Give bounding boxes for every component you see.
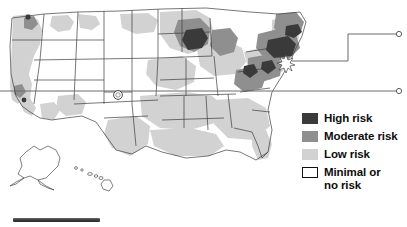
legend-label-low-risk: Low risk: [324, 148, 370, 161]
legend-item-minimal-risk: Minimal or no risk: [302, 166, 407, 198]
hawaii-inset: [75, 167, 113, 191]
legend-item-low-risk: Low risk: [302, 148, 407, 166]
alaska-inset: [10, 146, 60, 190]
high-risk-swatch: [302, 113, 318, 124]
legend-label-moderate-risk: Moderate risk: [324, 130, 397, 143]
minimal-risk-swatch: [302, 167, 318, 178]
low-risk-swatch: [302, 149, 318, 160]
map-screenshot: High risk Moderate risk Low risk Minimal…: [0, 0, 407, 227]
moderate-risk-swatch: [302, 131, 318, 142]
lower-callout-endpoint: [396, 88, 401, 93]
bottom-rule-bar: [13, 218, 100, 222]
mountain-west-circle-marker: [114, 91, 123, 100]
upper-callout-endpoint: [396, 31, 401, 36]
map-legend: High risk Moderate risk Low risk Minimal…: [302, 112, 407, 198]
legend-item-moderate-risk: Moderate risk: [302, 130, 407, 148]
legend-item-high-risk: High risk: [302, 112, 407, 130]
legend-label-minimal-risk: Minimal or no risk: [324, 166, 381, 191]
callout-endpoints: [396, 31, 401, 93]
legend-label-high-risk: High risk: [324, 112, 372, 125]
